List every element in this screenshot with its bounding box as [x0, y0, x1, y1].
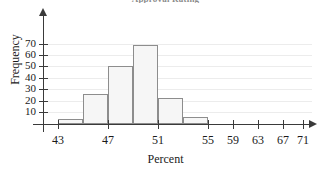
histogram-figure: Approval Rating 70 60 5 — [0, 0, 331, 175]
gridline-40 — [44, 78, 312, 79]
x-tick-label-43: 43 — [45, 134, 71, 147]
gridline-50 — [44, 66, 312, 67]
y-tick-40 — [39, 78, 48, 79]
y-tick-10 — [39, 112, 48, 113]
plot-area: 70 60 50 40 30 20 10 43 47 51 — [0, 0, 331, 175]
x-tick-71 — [303, 120, 304, 129]
bar-53-55 — [183, 117, 208, 124]
y-tick-70 — [39, 44, 48, 45]
x-tick-label-47: 47 — [95, 134, 121, 147]
x-tick-43 — [58, 120, 59, 129]
x-axis-arrow-icon — [309, 120, 317, 128]
x-tick-label-59: 59 — [220, 134, 246, 147]
y-tick-label-10: 10 — [14, 106, 36, 117]
gridline-60 — [44, 55, 312, 56]
y-tick-60 — [39, 55, 48, 56]
x-tick-63 — [258, 120, 259, 129]
bar-47-49 — [108, 66, 133, 124]
x-tick-51 — [158, 120, 159, 129]
gridline-30 — [44, 89, 312, 90]
x-tick-label-63: 63 — [245, 134, 271, 147]
y-axis-line — [43, 14, 44, 132]
x-tick-55 — [208, 120, 209, 129]
x-axis-line — [33, 124, 311, 125]
x-tick-67 — [283, 120, 284, 129]
x-tick-59 — [233, 120, 234, 129]
gridline-70 — [44, 44, 312, 45]
x-tick-label-71: 71 — [290, 134, 316, 147]
y-axis-arrow-icon — [39, 8, 47, 16]
x-axis-label: Percent — [0, 152, 331, 167]
bar-51-53 — [158, 98, 183, 124]
y-axis-label: Frequency — [8, 25, 23, 95]
y-tick-50 — [39, 66, 48, 67]
y-tick-30 — [39, 89, 48, 90]
x-tick-label-55: 55 — [195, 134, 221, 147]
bar-49-51 — [133, 45, 158, 124]
bar-45-47 — [83, 94, 108, 124]
x-tick-label-51: 51 — [145, 134, 171, 147]
x-tick-47 — [108, 120, 109, 129]
y-tick-20 — [39, 101, 48, 102]
